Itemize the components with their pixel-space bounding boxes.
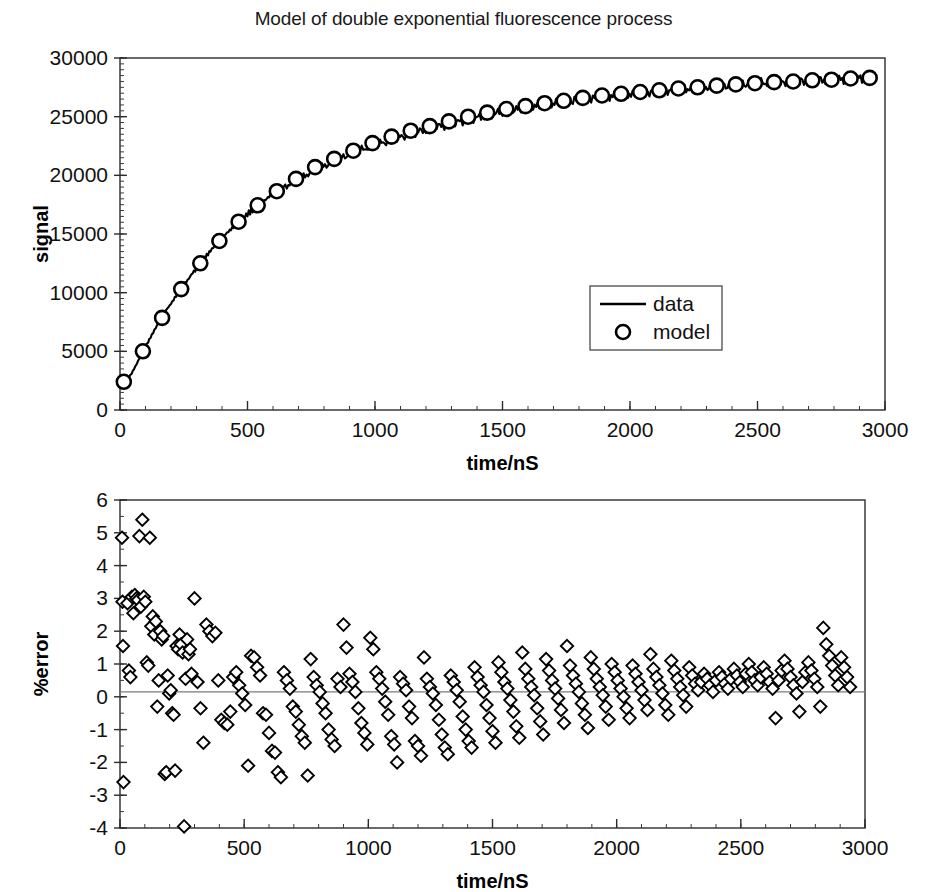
model-marker <box>595 89 609 103</box>
y-tick-label: 2 <box>96 619 108 642</box>
model-marker <box>193 256 207 270</box>
error-marker <box>197 737 209 749</box>
x-tick-label: 2500 <box>717 836 764 859</box>
legend-label-model: model <box>653 320 710 343</box>
x-tick-label: 500 <box>227 836 262 859</box>
model-marker <box>212 234 226 248</box>
error-marker <box>585 651 597 663</box>
model-marker <box>327 152 341 166</box>
model-marker <box>251 198 265 212</box>
signal-chart-svg: 0500100015002000250030000500010000150002… <box>0 32 927 482</box>
y-tick-label: 3 <box>96 586 108 609</box>
y-tick-label: 10000 <box>50 281 108 304</box>
signal-chart-panel: 0500100015002000250030000500010000150002… <box>0 32 927 482</box>
model-marker <box>136 344 150 358</box>
model-marker <box>270 184 284 198</box>
model-marker <box>423 119 437 133</box>
error-marker <box>540 653 552 665</box>
error-marker <box>430 699 442 711</box>
model-marker <box>652 83 666 97</box>
model-marker <box>174 282 188 296</box>
error-marker <box>516 646 528 658</box>
y-tick-label: 15000 <box>50 222 108 245</box>
model-marker <box>633 85 647 99</box>
y-tick-label: -1 <box>89 718 108 741</box>
error-chart-svg: 050010001500200025003000-4-3-2-10123456t… <box>0 482 927 892</box>
model-marker <box>346 144 360 158</box>
x-tick-label: 2000 <box>607 418 654 441</box>
error-marker <box>561 640 573 652</box>
x-tick-label: 1000 <box>345 836 392 859</box>
y-tick-label: 0 <box>96 398 108 421</box>
model-marker <box>671 82 685 96</box>
error-marker <box>361 738 373 750</box>
error-marker <box>454 696 466 708</box>
y-tick-label: -2 <box>89 750 108 773</box>
error-marker <box>510 720 522 732</box>
model-marker <box>786 75 800 89</box>
error-marker <box>558 717 570 729</box>
model-marker <box>729 77 743 91</box>
y-tick-label: 0 <box>96 685 108 708</box>
error-marker <box>436 728 448 740</box>
figure-title: Model of double exponential fluorescence… <box>0 8 927 30</box>
y-tick-label: 5000 <box>61 339 108 362</box>
model-marker <box>308 160 322 174</box>
x-tick-label: 3000 <box>842 836 889 859</box>
model-marker <box>844 72 858 86</box>
model-marker <box>404 124 418 138</box>
error-marker <box>576 697 588 709</box>
model-marker <box>155 311 169 325</box>
x-tick-label: 500 <box>230 418 265 441</box>
x-tick-label: 2000 <box>593 836 640 859</box>
figure-container: Model of double exponential fluorescence… <box>0 0 927 892</box>
error-marker <box>367 643 379 655</box>
data-series-line <box>120 74 870 384</box>
x-tick-label: 2500 <box>734 418 781 441</box>
y-tick-label: 25000 <box>50 105 108 128</box>
model-marker <box>748 76 762 90</box>
error-chart-panel: 050010001500200025003000-4-3-2-10123456t… <box>0 482 927 892</box>
y-tick-label: 1 <box>96 652 108 675</box>
error-marker <box>352 702 364 714</box>
error-marker <box>117 640 129 652</box>
error-marker <box>242 760 254 772</box>
model-marker <box>499 102 513 116</box>
error-marker <box>817 622 829 634</box>
x-tick-label: 1500 <box>479 418 526 441</box>
error-marker <box>769 712 781 724</box>
model-marker <box>691 80 705 94</box>
error-marker <box>555 704 567 716</box>
error-marker <box>600 700 612 712</box>
y-axis-title: signal <box>30 205 52 263</box>
legend-circle-swatch <box>616 325 630 339</box>
error-marker <box>117 776 129 788</box>
error-marker <box>486 725 498 737</box>
error-marker <box>293 719 305 731</box>
error-marker <box>340 641 352 653</box>
error-marker <box>406 712 418 724</box>
y-axis-title: %error <box>30 632 52 697</box>
x-tick-label: 0 <box>114 418 126 441</box>
legend-label-data: data <box>653 292 694 315</box>
error-marker <box>194 702 206 714</box>
error-marker <box>136 514 148 526</box>
y-tick-label: -3 <box>89 783 108 806</box>
error-marker <box>460 723 472 735</box>
model-marker <box>576 91 590 105</box>
error-marker <box>178 820 190 832</box>
error-marker <box>239 699 251 711</box>
legend: datamodel <box>590 286 722 350</box>
error-marker <box>305 653 317 665</box>
error-marker <box>263 727 275 739</box>
error-marker <box>504 694 516 706</box>
x-tick-label: 3000 <box>862 418 909 441</box>
error-marker <box>364 632 376 644</box>
error-marker <box>644 648 656 660</box>
model-marker <box>614 87 628 101</box>
model-marker <box>289 172 303 186</box>
model-marker <box>385 130 399 144</box>
x-tick-label: 1500 <box>469 836 516 859</box>
error-marker <box>582 722 594 734</box>
error-marker <box>403 700 415 712</box>
